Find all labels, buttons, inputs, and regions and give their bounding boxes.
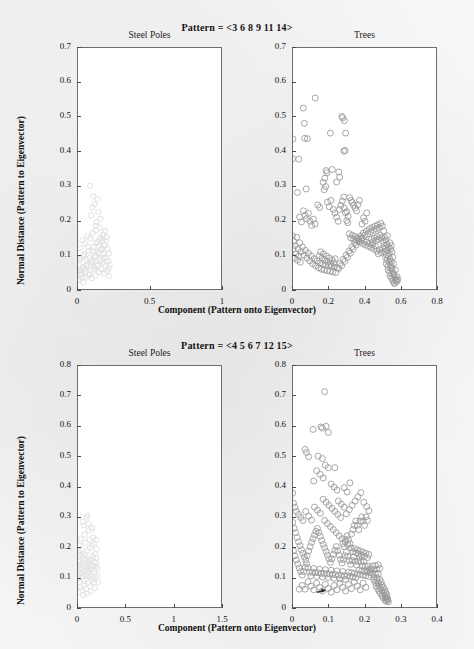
y-tick-label: 0.2 [60,214,71,224]
y-tick-mark [292,290,296,291]
y-tick-label: 0.5 [275,110,286,120]
y-tick-label: 0 [67,284,72,294]
y-tick-mark [292,151,296,152]
y-tick-label: 0.3 [60,179,71,189]
y-tick-mark [77,47,81,48]
y-tick-mark [292,456,296,457]
y-tick-mark [77,608,81,609]
y-tick-label: 0.1 [60,571,71,581]
y-tick-mark [292,426,296,427]
y-tick-mark [292,116,296,117]
y-tick-label: 0.1 [60,249,71,259]
y-tick-mark [77,517,81,518]
y-tick-mark [292,365,296,366]
y-tick-mark [77,395,81,396]
x-tick-mark [150,286,151,290]
plot-area-steel-poles-top[interactable]: 00.10.20.30.40.50.60.700.51 [77,47,222,290]
axes-frame [292,365,437,608]
y-axis-label-top: Normal Distance (Pattern to Eigenvector) [16,116,26,285]
plot-area-steel-poles-bottom[interactable]: 00.10.20.30.40.50.60.70.800.511.5 [77,365,222,608]
y-tick-mark [77,456,81,457]
y-tick-mark [292,547,296,548]
x-tick-mark [292,604,293,608]
y-tick-mark [77,365,81,366]
y-tick-label: 0.8 [60,359,71,369]
y-tick-label: 0.7 [275,41,286,51]
figure-bottom: Pattern = <4 5 6 7 12 15> Steel Poles Tr… [0,330,474,649]
y-tick-label: 0.4 [60,145,71,155]
plot-area-trees-top[interactable]: 00.10.20.30.40.50.60.700.20.40.60.8 [292,47,437,290]
y-tick-label: 0.3 [275,179,286,189]
y-tick-label: 0.4 [60,480,71,490]
y-tick-label: 0 [67,602,72,612]
subplot-title-steel-poles-bottom: Steel Poles [77,348,222,358]
y-tick-label: 0.4 [275,145,286,155]
y-tick-label: 0.7 [60,389,71,399]
y-tick-label: 0.2 [60,541,71,551]
y-tick-mark [292,517,296,518]
y-tick-label: 0 [282,602,287,612]
axes-frame [77,47,222,290]
y-tick-mark [292,578,296,579]
y-tick-mark [77,151,81,152]
x-tick-mark [125,604,126,608]
x-tick-mark [174,604,175,608]
y-tick-mark [292,255,296,256]
axes-frame [77,365,222,608]
y-tick-mark [77,547,81,548]
x-tick-mark [328,604,329,608]
x-tick-mark [401,286,402,290]
plot-area-trees-bottom[interactable]: 00.10.20.30.40.50.60.70.800.10.20.30.4 [292,365,437,608]
y-tick-label: 0.5 [60,450,71,460]
x-tick-mark [292,286,293,290]
y-tick-mark [292,186,296,187]
x-tick-mark [222,286,223,290]
x-tick-mark [365,286,366,290]
y-tick-mark [77,578,81,579]
y-tick-label: 0.2 [275,214,286,224]
x-tick-mark [222,604,223,608]
y-tick-mark [292,395,296,396]
y-tick-label: 0.5 [275,450,286,460]
y-tick-mark [292,487,296,488]
y-tick-label: 0.6 [275,419,286,429]
y-tick-mark [77,82,81,83]
x-tick-mark [365,604,366,608]
y-tick-mark [292,82,296,83]
subplot-title-trees-top: Trees [292,30,437,40]
subplot-title-trees-bottom: Trees [292,348,437,358]
y-tick-label: 0.3 [60,510,71,520]
y-tick-label: 0.6 [275,75,286,85]
x-tick-mark [77,286,78,290]
y-tick-mark [77,426,81,427]
x-tick-mark [77,604,78,608]
y-tick-mark [77,255,81,256]
x-tick-mark [401,604,402,608]
y-tick-mark [292,47,296,48]
y-tick-label: 0.6 [60,75,71,85]
y-tick-label: 0.7 [60,41,71,51]
y-tick-label: 0.1 [275,249,286,259]
y-tick-label: 0.6 [60,419,71,429]
axes-frame [292,47,437,290]
y-tick-label: 0.1 [275,571,286,581]
y-tick-label: 0.3 [275,510,286,520]
y-tick-mark [292,608,296,609]
subplot-title-steel-poles-top: Steel Poles [77,30,222,40]
y-tick-mark [77,116,81,117]
y-tick-mark [77,290,81,291]
y-tick-label: 0.4 [275,480,286,490]
figure-top: Pattern = <3 6 8 9 11 14> Steel Poles Tr… [0,0,474,330]
x-axis-label-bottom: Component (Pattern onto Eigenvector) [0,623,474,633]
y-axis-label-bottom: Normal Distance (Pattern to Eigenvector) [16,436,26,605]
y-tick-label: 0.8 [275,359,286,369]
x-tick-mark [328,286,329,290]
figure-page: Pattern = <3 6 8 9 11 14> Steel Poles Tr… [0,0,474,649]
y-tick-label: 0 [282,284,287,294]
y-tick-label: 0.5 [60,110,71,120]
x-tick-mark [437,604,438,608]
y-tick-mark [77,487,81,488]
y-tick-mark [77,186,81,187]
x-tick-mark [437,286,438,290]
x-axis-label-top: Component (Pattern onto Eigenvector) [0,305,474,315]
